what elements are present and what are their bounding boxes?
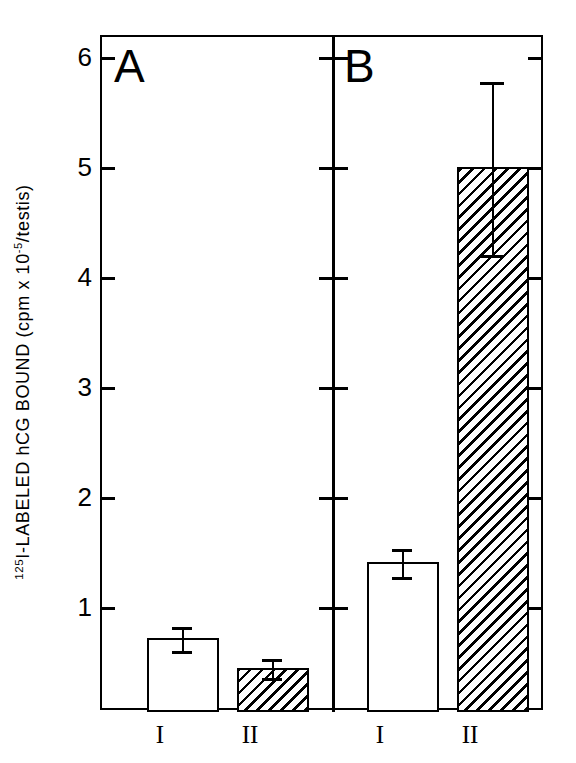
error-bar-stem-panel-b-group-ii (492, 82, 495, 257)
error-bar-stem-panel-a-group-i (182, 627, 185, 654)
error-bar-cap-bottom-panel-a-group-ii (262, 678, 282, 681)
y-tick-mark-4 (102, 277, 115, 280)
plot-area: A B (100, 35, 543, 710)
divider-tick-right-5 (335, 167, 348, 170)
y-axis-title-main-after: /testis) (13, 184, 33, 242)
error-bar-cap-top-panel-a-group-i (172, 627, 192, 630)
error-bar-stem-panel-b-group-i (402, 549, 405, 580)
divider-tick-left-6 (319, 57, 332, 60)
x-tick-label-panel-b-group-i: I (350, 722, 410, 747)
y-tick-mark-1 (102, 607, 115, 610)
y-axis-title-isotope-superscript: 125 (13, 558, 25, 579)
error-bar-cap-top-panel-b-group-ii (480, 82, 504, 85)
error-bar-cap-bottom-panel-b-group-i (392, 577, 412, 580)
figure-bar-chart: 125I-LABELED hCG BOUND (cpm x 10-5/testi… (0, 0, 576, 763)
y-axis-title: 125I-LABELED hCG BOUND (cpm x 10-5/testi… (12, 184, 34, 579)
x-tick-label-panel-b-group-ii: II (440, 722, 500, 747)
divider-tick-left-5 (319, 167, 332, 170)
y-tick-label-3: 3 (52, 374, 92, 400)
error-bar-cap-top-panel-a-group-ii (262, 659, 282, 662)
divider-tick-right-1 (335, 607, 348, 610)
y-tick-label-5: 5 (52, 154, 92, 180)
y-tick-mark-right-5 (528, 167, 541, 170)
x-tick-label-panel-a-group-i: I (130, 722, 190, 747)
y-tick-mark-3 (102, 387, 115, 390)
panel-label-a: A (114, 43, 145, 89)
y-tick-mark-right-1 (528, 607, 541, 610)
y-tick-mark-right-2 (528, 497, 541, 500)
y-tick-label-4: 4 (52, 264, 92, 290)
y-tick-label-6: 6 (52, 44, 92, 70)
panel-label-b: B (344, 43, 375, 89)
y-tick-mark-right-6 (528, 57, 541, 60)
divider-tick-right-2 (335, 497, 348, 500)
divider-tick-left-2 (319, 497, 332, 500)
y-tick-mark-5 (102, 167, 115, 170)
divider-tick-right-4 (335, 277, 348, 280)
divider-tick-left-1 (319, 607, 332, 610)
y-axis-title-main-before: I-LABELED hCG BOUND (cpm x 10 (13, 253, 33, 558)
error-bar-cap-top-panel-b-group-i (392, 549, 412, 552)
error-bar-cap-bottom-panel-b-group-ii (480, 255, 504, 258)
divider-tick-right-3 (335, 387, 348, 390)
error-bar-cap-bottom-panel-a-group-i (172, 651, 192, 654)
y-tick-mark-right-4 (528, 277, 541, 280)
y-axis-title-container: 125I-LABELED hCG BOUND (cpm x 10-5/testi… (0, 0, 46, 763)
y-tick-mark-2 (102, 497, 115, 500)
divider-tick-left-3 (319, 387, 332, 390)
y-tick-mark-right-3 (528, 387, 541, 390)
panel-divider (332, 37, 335, 712)
y-axis-title-exponent: -5 (12, 242, 24, 253)
x-tick-label-panel-a-group-ii: II (220, 722, 280, 747)
bar-panel-b-group-i[interactable] (367, 562, 439, 712)
y-tick-label-1: 1 (52, 594, 92, 620)
y-tick-label-2: 2 (52, 484, 92, 510)
divider-tick-left-4 (319, 277, 332, 280)
